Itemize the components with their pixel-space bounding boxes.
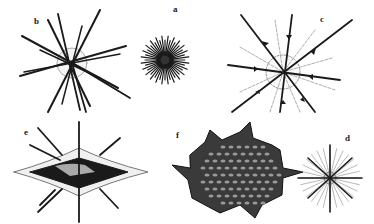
illustration-plate (0, 0, 374, 224)
label-e: e (24, 127, 28, 137)
panel-d-organism (298, 145, 362, 212)
label-f: f (176, 130, 179, 140)
label-c: c (320, 14, 324, 24)
panel-e-organism (14, 122, 148, 222)
label-b: b (34, 16, 39, 26)
label-a: a (173, 4, 178, 14)
panel-c-organism (228, 15, 352, 112)
panel-f-organism (172, 122, 303, 218)
panel-a-organism (141, 36, 189, 84)
label-d: d (345, 133, 350, 143)
